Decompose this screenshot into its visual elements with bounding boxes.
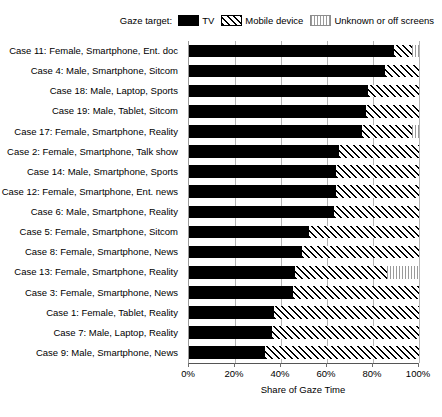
bar-segment-mobile-device[interactable] bbox=[394, 45, 412, 58]
stacked-bar[interactable] bbox=[189, 165, 419, 178]
stacked-bar[interactable] bbox=[189, 65, 419, 78]
legend-label-unknown: Unknown or off screens bbox=[334, 15, 434, 26]
y-axis-label: Case 14: Male, Smartphone, Sports bbox=[0, 162, 183, 182]
x-axis-tick-labels: 0%20%40%60%80%100% bbox=[0, 368, 442, 382]
grey-grid-hatch-swatch-icon bbox=[310, 15, 331, 26]
y-axis-label: Case 8: Female, Smartphone, News bbox=[0, 242, 183, 262]
stacked-bar[interactable] bbox=[189, 145, 419, 158]
stacked-bar[interactable] bbox=[189, 306, 419, 319]
bar-segment-mobile-device[interactable] bbox=[362, 125, 413, 138]
bar-segment-mobile-device[interactable] bbox=[336, 185, 419, 198]
bar-row[interactable] bbox=[189, 283, 419, 303]
bar-row[interactable] bbox=[189, 222, 419, 242]
y-axis-label: Case 7: Male, Laptop, Reality bbox=[0, 323, 183, 343]
bar-row[interactable] bbox=[189, 242, 419, 262]
stacked-bar[interactable] bbox=[189, 326, 419, 339]
legend-item-mobile-device: Mobile device bbox=[221, 15, 303, 26]
y-axis-label: Case 18: Male, Laptop, Sports bbox=[0, 81, 183, 101]
y-axis-label: Case 13: Female, Smartphone, Reality bbox=[0, 262, 183, 282]
stacked-bar[interactable] bbox=[189, 125, 419, 138]
legend-label-mobile-device: Mobile device bbox=[245, 15, 303, 26]
x-tick-label: 40% bbox=[270, 368, 289, 379]
bar-segment-tv[interactable] bbox=[189, 286, 293, 299]
bar-rows bbox=[189, 41, 419, 363]
bar-segment-tv[interactable] bbox=[189, 266, 295, 279]
solid-black-swatch-icon bbox=[178, 15, 199, 26]
bar-segment-mobile-device[interactable] bbox=[295, 266, 387, 279]
bar-segment-tv[interactable] bbox=[189, 346, 265, 359]
bar-segment-tv[interactable] bbox=[189, 165, 336, 178]
bar-segment-mobile-device[interactable] bbox=[272, 326, 419, 339]
bar-segment-mobile-device[interactable] bbox=[309, 226, 419, 239]
bar-segment-mobile-device[interactable] bbox=[368, 85, 419, 98]
bar-segment-mobile-device[interactable] bbox=[293, 286, 420, 299]
x-tick-label: 60% bbox=[316, 368, 335, 379]
bar-segment-tv[interactable] bbox=[189, 206, 334, 219]
bar-segment-mobile-device[interactable] bbox=[302, 246, 419, 259]
bar-segment-tv[interactable] bbox=[189, 45, 394, 58]
bar-segment-mobile-device[interactable] bbox=[366, 105, 419, 118]
legend-title: Gaze target: bbox=[120, 15, 172, 26]
bar-row[interactable] bbox=[189, 162, 419, 182]
bar-row[interactable] bbox=[189, 41, 419, 61]
y-axis-category-labels: Case 11: Female, Smartphone, Ent. docCas… bbox=[0, 41, 183, 363]
stacked-bar[interactable] bbox=[189, 246, 419, 259]
bar-row[interactable] bbox=[189, 202, 419, 222]
bar-segment-mobile-device[interactable] bbox=[274, 306, 419, 319]
stacked-bar[interactable] bbox=[189, 266, 419, 279]
y-axis-label: Case 6: Male, Smartphone, Reality bbox=[0, 202, 183, 222]
legend-label-tv: TV bbox=[202, 15, 214, 26]
x-tick-20 bbox=[234, 363, 235, 367]
y-axis-label: Case 4: Male, Smartphone, Sitcom bbox=[0, 61, 183, 81]
legend-item-unknown: Unknown or off screens bbox=[310, 15, 434, 26]
bar-segment-unknown[interactable] bbox=[387, 266, 419, 279]
bar-segment-tv[interactable] bbox=[189, 326, 272, 339]
bar-segment-tv[interactable] bbox=[189, 185, 336, 198]
bar-segment-mobile-device[interactable] bbox=[265, 346, 419, 359]
bar-segment-tv[interactable] bbox=[189, 85, 368, 98]
bar-segment-tv[interactable] bbox=[189, 65, 385, 78]
bar-row[interactable] bbox=[189, 142, 419, 162]
bar-row[interactable] bbox=[189, 323, 419, 343]
x-tick-40 bbox=[280, 363, 281, 367]
bar-segment-mobile-device[interactable] bbox=[334, 206, 419, 219]
stacked-bar[interactable] bbox=[189, 185, 419, 198]
bar-segment-mobile-device[interactable] bbox=[385, 65, 420, 78]
bar-row[interactable] bbox=[189, 122, 419, 142]
bar-row[interactable] bbox=[189, 81, 419, 101]
chart-legend: Gaze target: TV Mobile device Unknown or… bbox=[0, 10, 442, 30]
gridline-100 bbox=[419, 41, 420, 363]
stacked-bar[interactable] bbox=[189, 206, 419, 219]
bar-segment-mobile-device[interactable] bbox=[336, 165, 419, 178]
y-axis-label: Case 5: Female, Smartphone, Sitcom bbox=[0, 222, 183, 242]
x-tick-80 bbox=[372, 363, 373, 367]
bar-row[interactable] bbox=[189, 101, 419, 121]
bar-segment-tv[interactable] bbox=[189, 105, 366, 118]
bar-segment-tv[interactable] bbox=[189, 125, 362, 138]
stacked-bar[interactable] bbox=[189, 45, 419, 58]
bar-row[interactable] bbox=[189, 303, 419, 323]
bar-row[interactable] bbox=[189, 61, 419, 81]
stacked-bar[interactable] bbox=[189, 286, 419, 299]
stacked-bar[interactable] bbox=[189, 226, 419, 239]
y-axis-label: Case 2: Female, Smartphone, Talk show bbox=[0, 142, 183, 162]
legend-item-tv: TV bbox=[178, 15, 214, 26]
y-axis-label: Case 1: Female, Tablet, Reality bbox=[0, 303, 183, 323]
x-tick-label: 80% bbox=[362, 368, 381, 379]
stacked-bar[interactable] bbox=[189, 85, 419, 98]
stacked-bar[interactable] bbox=[189, 105, 419, 118]
bar-segment-tv[interactable] bbox=[189, 246, 302, 259]
bar-segment-tv[interactable] bbox=[189, 306, 274, 319]
x-tick-label: 0% bbox=[181, 368, 195, 379]
bar-row[interactable] bbox=[189, 182, 419, 202]
bar-segment-mobile-device[interactable] bbox=[339, 145, 420, 158]
bar-segment-tv[interactable] bbox=[189, 226, 309, 239]
bar-segment-tv[interactable] bbox=[189, 145, 339, 158]
bar-row[interactable] bbox=[189, 262, 419, 282]
plot-area bbox=[188, 41, 419, 364]
bar-segment-unknown[interactable] bbox=[412, 45, 419, 58]
bar-row[interactable] bbox=[189, 343, 419, 363]
stacked-bar-chart: Gaze target: TV Mobile device Unknown or… bbox=[0, 0, 442, 417]
stacked-bar[interactable] bbox=[189, 346, 419, 359]
bar-segment-unknown[interactable] bbox=[412, 125, 419, 138]
